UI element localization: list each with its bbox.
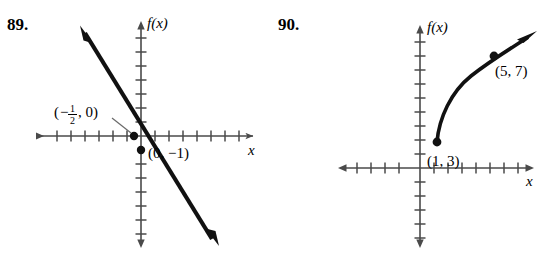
problem-panel-90: 90. x — [271, 0, 542, 255]
label-x-intercept-rest: , 0) — [78, 104, 98, 121]
y-axis-label: f(x) — [427, 19, 448, 36]
leader-line-x-intercept — [112, 118, 131, 133]
x-axis-right-arrowhead — [526, 164, 535, 171]
x-axis-left-arrowhead — [338, 164, 347, 171]
label-y-intercept-89: (0, −1) — [148, 145, 189, 162]
label-x-intercept-numerator: 1 — [70, 103, 75, 114]
x-axis-left-arrowhead — [36, 133, 44, 140]
y-axis-bottom-arrowhead — [137, 240, 144, 249]
y-axis-89: f(x) — [136, 15, 168, 248]
label-x-intercept-minus: − — [60, 104, 68, 120]
label-point-5-7: (5, 7) — [495, 63, 528, 80]
label-x-intercept-denominator: 2 — [70, 115, 75, 126]
y-axis-label: f(x) — [147, 15, 168, 32]
problem-panel-89: 89. — [0, 0, 271, 255]
point-5-7 — [490, 52, 499, 61]
label-x-intercept-89: ( − 1 2 , 0) — [54, 103, 98, 126]
line-upper-left-arrowhead — [80, 26, 94, 44]
graph-90-radical-function: x f(x) — [271, 0, 542, 255]
y-axis-top-arrowhead — [416, 25, 423, 34]
function-curve-90 — [437, 31, 537, 142]
point-start-1-3 — [433, 138, 442, 147]
label-x-intercept-open: ( — [54, 104, 59, 121]
point-x-intercept — [130, 132, 138, 140]
y-axis-90: f(x) — [415, 19, 448, 248]
x-axis-label: x — [247, 142, 255, 158]
y-axis-top-arrowhead — [137, 21, 144, 30]
y-axis-bottom-arrowhead — [416, 240, 423, 249]
x-axis-label: x — [525, 173, 533, 189]
graph-89-linear-function: x f(x) — [0, 0, 271, 255]
label-point-1-3: (1, 3) — [427, 153, 460, 170]
point-y-intercept — [137, 146, 145, 154]
curve-path — [437, 38, 527, 142]
